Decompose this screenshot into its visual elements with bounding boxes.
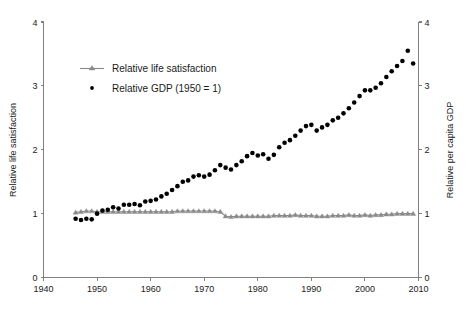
gdp-point <box>127 202 132 207</box>
left-tick-label: 3 <box>32 81 37 91</box>
gdp-point <box>384 75 389 80</box>
chart-figure: 01234 01234 1940195019601970198019902000… <box>0 0 469 317</box>
gdp-point <box>277 145 282 150</box>
gdp-point <box>79 218 84 223</box>
legend-gdp-marker <box>90 86 94 90</box>
x-tick-label: 1980 <box>248 284 268 294</box>
gdp-point <box>266 156 271 161</box>
gdp-point <box>223 165 228 170</box>
gdp-point <box>213 168 218 173</box>
gdp-point <box>368 88 373 93</box>
series-relative-life-satisfaction <box>73 209 416 219</box>
gdp-point <box>191 174 196 179</box>
gdp-point <box>122 202 127 207</box>
gdp-point <box>143 199 148 204</box>
right-axis-ticks: 01234 <box>419 18 430 284</box>
gdp-point <box>159 194 164 199</box>
gdp-point <box>73 216 78 221</box>
gdp-point <box>282 140 287 145</box>
gdp-point <box>304 124 309 129</box>
left-tick-label: 2 <box>32 145 37 155</box>
gdp-point <box>298 128 303 133</box>
gdp-point <box>89 217 94 222</box>
gdp-point <box>100 208 105 213</box>
x-tick-label: 2000 <box>355 284 375 294</box>
gdp-point <box>250 151 255 156</box>
gdp-point <box>148 199 153 204</box>
y2-axis-title: Relative per capita GDP <box>445 102 455 199</box>
gdp-point <box>357 94 362 99</box>
gdp-point <box>347 106 352 111</box>
legend-life-satisfaction-marker <box>89 66 95 70</box>
gdp-point <box>363 88 368 93</box>
gdp-point <box>320 125 325 130</box>
gdp-point <box>105 207 110 212</box>
gdp-point <box>293 133 298 138</box>
x-axis-ticks: 19401950196019701980199020002010 <box>33 278 428 294</box>
gdp-point <box>395 64 400 69</box>
gdp-point <box>170 188 175 193</box>
x-tick-label: 1950 <box>87 284 107 294</box>
y-axis-title: Relative life satisfaction <box>8 103 18 197</box>
gdp-point <box>411 61 416 66</box>
gdp-point <box>186 178 191 183</box>
gdp-point <box>309 123 314 128</box>
gdp-point <box>202 174 207 179</box>
gdp-point <box>255 153 260 158</box>
gdp-point <box>180 179 185 184</box>
gdp-point <box>84 216 89 221</box>
gdp-point <box>261 152 266 157</box>
gdp-point <box>373 85 378 90</box>
legend-label-gdp: Relative GDP (1950 = 1) <box>112 83 221 94</box>
x-tick-label: 1970 <box>194 284 214 294</box>
gdp-point <box>154 197 159 202</box>
right-tick-label: 1 <box>425 209 430 219</box>
gdp-point <box>325 123 330 128</box>
gdp-point <box>239 159 244 164</box>
gdp-point <box>218 163 223 168</box>
gdp-point <box>111 205 116 210</box>
gdp-point <box>116 206 121 211</box>
gdp-point <box>234 163 239 168</box>
gdp-point <box>379 81 384 86</box>
left-tick-label: 1 <box>32 209 37 219</box>
gdp-point <box>138 203 143 208</box>
right-tick-label: 4 <box>425 18 430 28</box>
gdp-point <box>164 192 169 197</box>
gdp-point <box>95 211 100 216</box>
right-tick-label: 3 <box>425 81 430 91</box>
left-tick-label: 4 <box>32 18 37 28</box>
x-tick-label: 1940 <box>33 284 53 294</box>
gdp-point <box>352 100 357 105</box>
left-tick-label: 0 <box>32 273 37 283</box>
chart-canvas: 01234 01234 1940195019601970198019902000… <box>0 0 469 317</box>
gdp-point <box>330 118 335 123</box>
gdp-point <box>405 48 410 53</box>
right-tick-label: 2 <box>425 145 430 155</box>
gdp-point <box>341 111 346 116</box>
gdp-point <box>400 59 405 64</box>
gdp-point <box>245 154 250 159</box>
chart-legend: Relative life satisfaction Relative GDP … <box>80 63 221 94</box>
legend-label-life-satisfaction: Relative life satisfaction <box>112 63 217 74</box>
x-tick-label: 1960 <box>141 284 161 294</box>
gdp-point <box>175 184 180 189</box>
life-satisfaction-line <box>76 211 414 217</box>
gdp-point <box>229 167 234 172</box>
gdp-point <box>288 138 293 143</box>
gdp-point <box>389 69 394 74</box>
gdp-point <box>207 172 212 177</box>
gdp-point <box>314 128 319 133</box>
gdp-point <box>197 173 202 178</box>
left-axis-ticks: 01234 <box>32 18 43 284</box>
gdp-point <box>132 202 137 207</box>
right-tick-label: 0 <box>425 273 430 283</box>
series-relative-gdp <box>73 48 415 222</box>
gdp-point <box>336 116 341 121</box>
x-tick-label: 2010 <box>408 284 428 294</box>
x-tick-label: 1990 <box>301 284 321 294</box>
gdp-point <box>272 153 277 158</box>
